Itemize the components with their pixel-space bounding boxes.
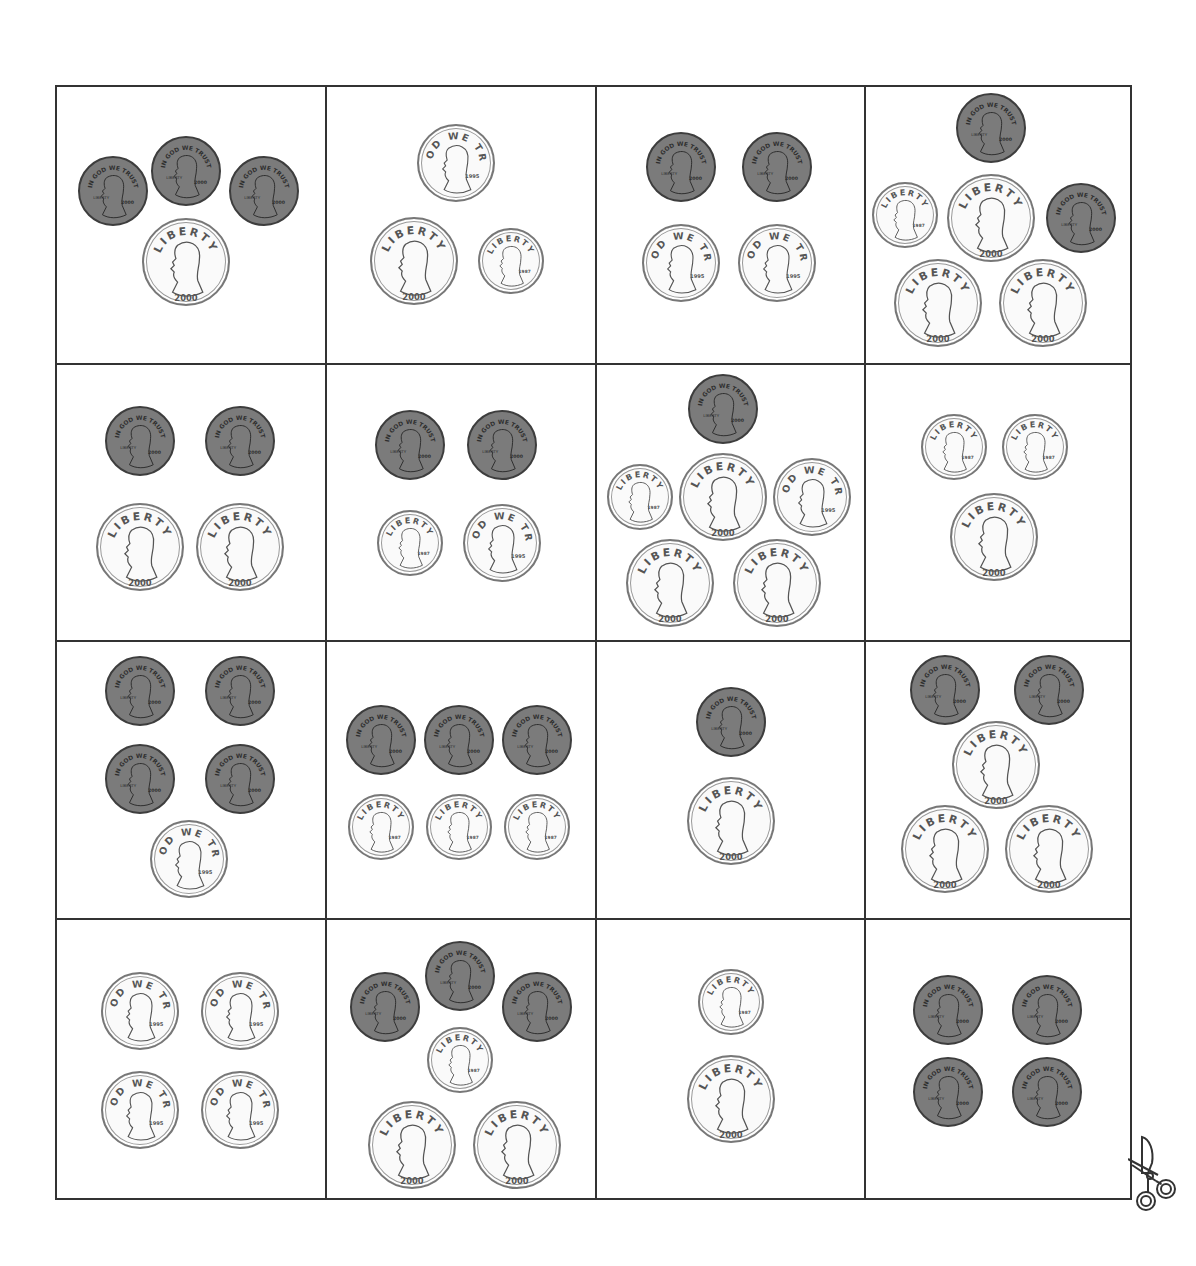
svg-text:2000: 2000 bbox=[953, 699, 966, 704]
svg-text:2000: 2000 bbox=[545, 749, 558, 754]
quarter-coin-icon: LIBERTY2000 bbox=[96, 503, 184, 591]
nickel-coin-icon: IN GOD WE TRUST1995 bbox=[201, 1071, 279, 1149]
svg-text:IN GOD WE TRUST: IN GOD WE TRUST bbox=[113, 664, 167, 690]
svg-text:2000: 2000 bbox=[1055, 1019, 1068, 1024]
svg-text:LIBERTY: LIBERTY bbox=[1008, 266, 1078, 296]
svg-text:LIBERTY: LIBERTY bbox=[361, 744, 377, 749]
svg-text:IN GOD WE TRUST: IN GOD WE TRUST bbox=[432, 713, 486, 739]
svg-text:2000: 2000 bbox=[389, 749, 402, 754]
svg-text:IN GOD WE TRUST: IN GOD WE TRUST bbox=[510, 980, 564, 1006]
svg-text:LIBERTY: LIBERTY bbox=[220, 445, 236, 450]
svg-text:LIBERTY: LIBERTY bbox=[482, 1108, 552, 1138]
svg-text:2000: 2000 bbox=[402, 292, 425, 302]
svg-text:2000: 2000 bbox=[468, 985, 481, 990]
penny-coin-icon: IN GOD WE TRUST2000LIBERTY bbox=[205, 656, 275, 726]
svg-text:IN GOD WE TRUST: IN GOD WE TRUST bbox=[1020, 983, 1074, 1009]
svg-text:2000: 2000 bbox=[248, 700, 261, 705]
svg-text:1995: 1995 bbox=[198, 869, 213, 875]
dime-coin-icon: LIBERTY1987 bbox=[504, 794, 570, 860]
svg-text:IN GOD WE TRUST: IN GOD WE TRUST bbox=[354, 713, 408, 739]
svg-text:LIBERTY: LIBERTY bbox=[1029, 694, 1045, 699]
dime-coin-icon: LIBERTY1987 bbox=[1002, 414, 1068, 480]
svg-text:IN GOD WE TRUST: IN GOD WE TRUST bbox=[510, 713, 564, 739]
svg-text:2000: 2000 bbox=[228, 578, 251, 588]
svg-text:1995: 1995 bbox=[249, 1021, 264, 1027]
quarter-coin-icon: LIBERTY2000 bbox=[901, 805, 989, 893]
quarter-coin-icon: LIBERTY2000 bbox=[626, 539, 714, 627]
svg-text:LIBERTY: LIBERTY bbox=[385, 516, 436, 538]
svg-text:IN GOD WE TRUST: IN GOD WE TRUST bbox=[964, 101, 1018, 127]
svg-text:LIBERTY: LIBERTY bbox=[379, 224, 449, 254]
svg-text:2000: 2000 bbox=[711, 528, 734, 538]
svg-text:IN GOD WE TRUST: IN GOD WE TRUST bbox=[113, 414, 167, 440]
svg-text:LIBERTY: LIBERTY bbox=[120, 783, 136, 788]
svg-text:LIBERTY: LIBERTY bbox=[512, 800, 563, 822]
dime-coin-icon: LIBERTY1987 bbox=[348, 794, 414, 860]
svg-text:1987: 1987 bbox=[962, 455, 974, 460]
svg-text:2000: 2000 bbox=[248, 788, 261, 793]
svg-text:2000: 2000 bbox=[731, 418, 744, 423]
penny-coin-icon: IN GOD WE TRUST2000LIBERTY bbox=[205, 744, 275, 814]
nickel-coin-icon: IN GOD WE TRUST1995 bbox=[150, 820, 228, 898]
penny-coin-icon: IN GOD WE TRUST2000LIBERTY bbox=[913, 1057, 983, 1127]
svg-text:IN GOD WE TRUST: IN GOD WE TRUST bbox=[433, 949, 487, 975]
penny-coin-icon: IN GOD WE TRUST2000LIBERTY bbox=[956, 93, 1026, 163]
coin-card-r1-c3 bbox=[595, 85, 866, 365]
svg-text:2000: 2000 bbox=[400, 1176, 423, 1186]
coin-card-r4-c4 bbox=[864, 918, 1132, 1200]
svg-text:LIBERTY: LIBERTY bbox=[486, 234, 537, 256]
quarter-coin-icon: LIBERTY2000 bbox=[999, 259, 1087, 347]
svg-text:LIBERTY: LIBERTY bbox=[1027, 1096, 1043, 1101]
svg-text:1987: 1987 bbox=[913, 223, 925, 228]
coin-card-r3-c2 bbox=[325, 640, 597, 920]
svg-text:LIBERTY: LIBERTY bbox=[961, 728, 1031, 758]
svg-text:LIBERTY: LIBERTY bbox=[928, 1096, 944, 1101]
penny-coin-icon: IN GOD WE TRUST2000LIBERTY bbox=[78, 156, 148, 226]
svg-text:2000: 2000 bbox=[1037, 880, 1060, 890]
svg-text:LIBERTY: LIBERTY bbox=[220, 783, 236, 788]
quarter-coin-icon: LIBERTY2000 bbox=[687, 777, 775, 865]
quarter-coin-icon: LIBERTY2000 bbox=[370, 217, 458, 305]
svg-text:2000: 2000 bbox=[194, 180, 207, 185]
svg-text:LIBERTY: LIBERTY bbox=[435, 1033, 486, 1055]
penny-coin-icon: IN GOD WE TRUST2000LIBERTY bbox=[910, 655, 980, 725]
svg-text:LIBERTY: LIBERTY bbox=[120, 695, 136, 700]
penny-coin-icon: IN GOD WE TRUST2000LIBERTY bbox=[742, 132, 812, 202]
svg-text:2000: 2000 bbox=[979, 249, 1002, 259]
svg-text:LIBERTY: LIBERTY bbox=[93, 195, 109, 200]
coin-card-r2-c2 bbox=[325, 363, 597, 642]
svg-text:LIBERTY: LIBERTY bbox=[928, 1014, 944, 1019]
penny-coin-icon: IN GOD WE TRUST2000LIBERTY bbox=[1012, 975, 1082, 1045]
penny-coin-icon: IN GOD WE TRUST2000LIBERTY bbox=[1046, 183, 1116, 253]
svg-text:2000: 2000 bbox=[272, 200, 285, 205]
dime-coin-icon: LIBERTY1987 bbox=[872, 182, 938, 248]
svg-text:IN GOD WE TRUST: IN GOD WE TRUST bbox=[203, 1073, 273, 1111]
svg-text:IN GOD WE TRUST: IN GOD WE TRUST bbox=[475, 418, 529, 444]
svg-text:LIBERTY: LIBERTY bbox=[925, 694, 941, 699]
dime-coin-icon: LIBERTY1987 bbox=[426, 794, 492, 860]
svg-text:LIBERTY: LIBERTY bbox=[706, 975, 757, 997]
svg-text:2000: 2000 bbox=[933, 880, 956, 890]
svg-text:2000: 2000 bbox=[1055, 1101, 1068, 1106]
quarter-coin-icon: LIBERTY2000 bbox=[952, 721, 1040, 809]
penny-coin-icon: IN GOD WE TRUST2000LIBERTY bbox=[1012, 1057, 1082, 1127]
svg-text:1995: 1995 bbox=[511, 553, 526, 559]
svg-text:LIBERTY: LIBERTY bbox=[220, 695, 236, 700]
penny-coin-icon: IN GOD WE TRUST2000LIBERTY bbox=[1014, 655, 1084, 725]
svg-text:IN GOD WE TRUST: IN GOD WE TRUST bbox=[103, 1073, 173, 1111]
svg-text:LIBERTY: LIBERTY bbox=[757, 171, 773, 176]
svg-text:IN GOD WE TRUST: IN GOD WE TRUST bbox=[152, 822, 222, 860]
svg-text:LIBERTY: LIBERTY bbox=[1014, 812, 1084, 842]
svg-text:IN GOD WE TRUST: IN GOD WE TRUST bbox=[213, 414, 267, 440]
svg-text:1995: 1995 bbox=[821, 507, 836, 513]
penny-coin-icon: IN GOD WE TRUST2000LIBERTY bbox=[105, 406, 175, 476]
svg-text:IN GOD WE TRUST: IN GOD WE TRUST bbox=[750, 140, 804, 166]
svg-text:IN GOD WE TRUST: IN GOD WE TRUST bbox=[465, 506, 535, 544]
svg-text:IN GOD WE TRUST: IN GOD WE TRUST bbox=[159, 144, 213, 170]
svg-text:LIBERTY: LIBERTY bbox=[517, 1011, 533, 1016]
penny-coin-icon: IN GOD WE TRUST2000LIBERTY bbox=[105, 744, 175, 814]
svg-text:LIBERTY: LIBERTY bbox=[1061, 222, 1077, 227]
svg-text:LIBERTY: LIBERTY bbox=[956, 181, 1026, 211]
svg-text:1995: 1995 bbox=[149, 1021, 164, 1027]
penny-coin-icon: IN GOD WE TRUST2000LIBERTY bbox=[229, 156, 299, 226]
